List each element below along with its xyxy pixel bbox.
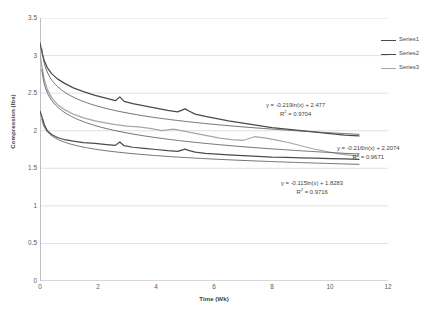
equation-3-formula: y = -0.115ln(x) + 1.8283 — [281, 180, 343, 186]
y-axis-tick-label: 1.5 — [3, 165, 37, 171]
y-axis-tick-labels: 00.511.522.533.5 — [0, 18, 37, 281]
equation-2-r2: R2 = 0.9671 — [337, 153, 400, 162]
chart-legend: Series1Series2Series3 — [381, 33, 443, 75]
legend-label: Series2 — [399, 51, 419, 57]
trendline-equation-1: y = -0.219ln(x) + 2.477 R2 = 0.9704 — [266, 101, 325, 118]
y-axis-tick-label: 0.5 — [3, 240, 37, 246]
y-axis-tick-label: 1 — [3, 203, 37, 209]
series-line-series2 — [40, 111, 359, 159]
legend-item-series3[interactable]: Series3 — [381, 61, 443, 75]
series-line-series1 — [40, 43, 359, 136]
equation-2-formula: y = -0.216ln(x) + 2.2074 — [337, 145, 400, 151]
chart-container: 00.511.522.533.5 024681012 Compression (… — [0, 0, 446, 311]
trendline-series1 — [42, 49, 359, 135]
legend-item-series2[interactable]: Series2 — [381, 47, 443, 61]
legend-line-icon — [381, 68, 396, 69]
y-axis-tick-label: 3 — [3, 52, 37, 58]
x-axis-tick-label: 2 — [96, 284, 100, 290]
legend-line-icon — [381, 40, 396, 41]
legend-label: Series3 — [399, 65, 419, 71]
x-axis-tick-label: 12 — [384, 284, 391, 290]
equation-3-r2: R2 = 0.9716 — [281, 188, 343, 197]
trendline-equation-3: y = -0.115ln(x) + 1.8283 R2 = 0.9716 — [281, 179, 343, 196]
legend-item-series1[interactable]: Series1 — [381, 33, 443, 47]
x-axis-title: Time (Wk) — [40, 295, 388, 302]
y-axis-tick-label: 3.5 — [3, 15, 37, 21]
legend-label: Series1 — [399, 37, 419, 43]
x-axis-tick-label: 4 — [154, 284, 158, 290]
plot-svg — [40, 18, 388, 281]
x-axis-tick-label: 0 — [38, 284, 42, 290]
equation-1-formula: y = -0.219ln(x) + 2.477 — [266, 102, 325, 108]
y-axis-tick-label: 0 — [3, 278, 37, 284]
plot-area — [40, 18, 388, 281]
x-axis-tick-label: 6 — [212, 284, 216, 290]
trendline-equation-2: y = -0.216ln(x) + 2.2074 R2 = 0.9671 — [337, 144, 400, 161]
y-axis-title: Compression (lbs) — [9, 82, 16, 162]
x-axis-tick-label: 10 — [326, 284, 333, 290]
equation-1-r2: R2 = 0.9704 — [266, 110, 325, 119]
x-axis-tick-label: 8 — [270, 284, 274, 290]
legend-line-icon — [381, 54, 396, 55]
